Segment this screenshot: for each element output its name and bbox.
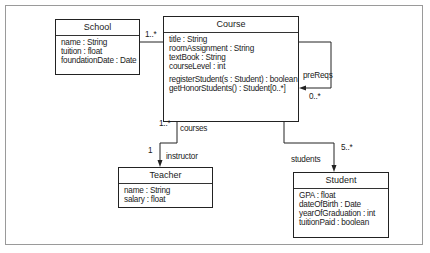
attribute: courseLevel : int <box>169 62 294 71</box>
school-course-multiplicity: 1..* <box>145 30 157 39</box>
attributes-compartment: title : String roomAssignment : String t… <box>164 33 298 71</box>
attribute: salary : float <box>124 195 208 204</box>
attributes-compartment: GPA : float dateOfBirth : Date yearOfGra… <box>294 189 388 227</box>
attribute: dateOfBirth : Date <box>299 200 384 209</box>
attribute: tuition : float <box>61 47 135 56</box>
instructor-multiplicity: 1 <box>148 146 152 155</box>
operation: getHonorStudents() : Student[0..*] <box>169 84 294 93</box>
class-name: Course <box>164 17 298 33</box>
class-student[interactable]: Student GPA : float dateOfBirth : Date y… <box>293 172 389 238</box>
operation: registerStudent(s : Student) : boolean <box>169 75 294 84</box>
attribute: GPA : float <box>299 191 384 200</box>
courses-role: courses <box>180 124 207 133</box>
attribute: yearOfGraduation : int <box>299 209 384 218</box>
class-teacher[interactable]: Teacher name : String salary : float <box>118 167 213 208</box>
students-role: students <box>291 155 320 164</box>
attributes-compartment: name : String tuition : float foundation… <box>56 36 139 65</box>
students-multiplicity: 5..* <box>341 143 353 152</box>
class-name: Student <box>294 173 388 189</box>
operations-compartment: registerStudent(s : Student) : boolean g… <box>164 71 298 93</box>
class-name: Teacher <box>119 168 212 184</box>
instructor-arrowhead-icon <box>158 160 163 167</box>
courses-multiplicity: 1..* <box>159 119 171 128</box>
attribute: title : String <box>169 35 294 44</box>
attribute: roomAssignment : String <box>169 44 294 53</box>
students-arrowhead-icon <box>332 165 337 172</box>
prereqs-role: preReqs <box>303 71 333 80</box>
prereqs-association <box>298 42 331 88</box>
attribute: foundationDate : Date <box>61 56 135 65</box>
attribute: textBook : String <box>169 53 294 62</box>
instructor-role: instructor <box>166 152 198 161</box>
attribute: tuitionPaid : boolean <box>299 218 384 227</box>
attribute: name : String <box>124 186 208 195</box>
prereqs-multiplicity: 0..* <box>309 92 321 101</box>
class-course[interactable]: Course title : String roomAssignment : S… <box>163 16 299 122</box>
prereqs-arrowhead-icon <box>299 86 306 91</box>
class-name: School <box>56 20 139 36</box>
attributes-compartment: name : String salary : float <box>119 184 212 204</box>
attribute: name : String <box>61 38 135 47</box>
class-school[interactable]: School name : String tuition : float fou… <box>55 19 140 75</box>
